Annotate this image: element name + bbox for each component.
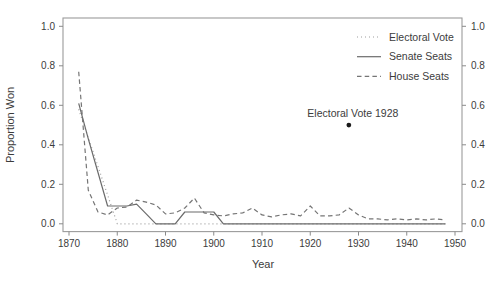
y-tick-label-left: 0.2 bbox=[41, 179, 55, 190]
chart-figure: 187018801890190019101920193019401950 0.0… bbox=[0, 0, 503, 285]
y-tick-label-right: 0.4 bbox=[471, 139, 485, 150]
x-tick-label: 1920 bbox=[299, 238, 322, 249]
x-tick-label: 1930 bbox=[347, 238, 370, 249]
x-tick-label: 1890 bbox=[154, 238, 177, 249]
x-tick-label: 1870 bbox=[58, 238, 81, 249]
y-axis-left: 0.00.20.40.60.81.0 bbox=[41, 21, 63, 230]
series-lines bbox=[79, 72, 446, 224]
series-line-senate-seats bbox=[79, 103, 446, 224]
y-tick-label-right: 0.8 bbox=[471, 60, 485, 71]
y-tick-label-right: 1.0 bbox=[471, 21, 485, 32]
legend: Electoral VoteSenate SeatsHouse Seats bbox=[357, 31, 454, 82]
y-tick-label-left: 0.0 bbox=[41, 218, 55, 229]
legend-label: Electoral Vote bbox=[389, 31, 454, 43]
annotation-point bbox=[346, 123, 351, 128]
x-tick-label: 1950 bbox=[444, 238, 467, 249]
annotation-label: Electoral Vote 1928 bbox=[307, 107, 398, 119]
x-tick-label: 1900 bbox=[203, 238, 226, 249]
legend-label: House Seats bbox=[389, 70, 449, 82]
series-line-house-seats bbox=[79, 72, 446, 220]
x-axis: 187018801890190019101920193019401950 bbox=[58, 232, 467, 249]
y-axis-title: Proportion Won bbox=[4, 87, 16, 163]
y-tick-label-left: 0.8 bbox=[41, 60, 55, 71]
y-tick-label-right: 0.6 bbox=[471, 100, 485, 111]
y-tick-label-left: 0.6 bbox=[41, 100, 55, 111]
series-line-electoral-vote bbox=[79, 109, 446, 224]
y-tick-label-left: 0.4 bbox=[41, 139, 55, 150]
y-axis-right: 0.00.20.40.60.81.0 bbox=[462, 21, 485, 230]
y-tick-label-right: 0.0 bbox=[471, 218, 485, 229]
legend-label: Senate Seats bbox=[389, 50, 452, 62]
y-tick-label-right: 0.2 bbox=[471, 179, 485, 190]
chart-svg: 187018801890190019101920193019401950 0.0… bbox=[0, 0, 503, 285]
x-tick-label: 1880 bbox=[106, 238, 129, 249]
x-axis-title: Year bbox=[252, 258, 275, 270]
x-tick-label: 1910 bbox=[251, 238, 274, 249]
y-tick-label-left: 1.0 bbox=[41, 21, 55, 32]
x-tick-label: 1940 bbox=[396, 238, 419, 249]
annotation: Electoral Vote 1928 bbox=[307, 107, 398, 127]
